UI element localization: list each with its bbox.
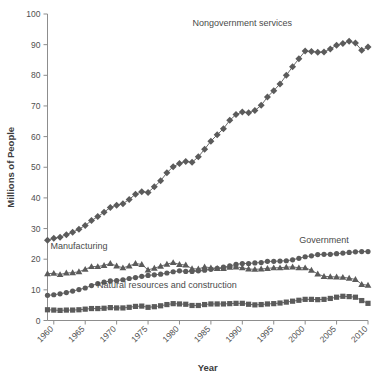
data-point-circle [271, 259, 276, 264]
data-point-square [340, 294, 345, 299]
data-point-circle [202, 268, 207, 273]
data-point-circle [215, 266, 220, 271]
data-point-circle [57, 291, 62, 296]
data-point-circle [321, 252, 326, 257]
y-tick-label: 60 [31, 132, 41, 142]
x-tick-label: 1980 [160, 324, 181, 345]
data-point-square [171, 301, 176, 306]
y-tick-label: 90 [31, 40, 41, 50]
data-point-diamond [321, 49, 328, 56]
data-point-circle [64, 290, 69, 295]
data-point-diamond [75, 226, 82, 233]
data-point-square [89, 306, 94, 311]
data-point-circle [233, 262, 238, 267]
data-point-circle [183, 269, 188, 274]
data-point-square [152, 304, 157, 309]
data-point-square [252, 302, 257, 307]
x-tick-label: 1990 [223, 324, 244, 345]
data-point-square [315, 297, 320, 302]
data-point-triangle [107, 260, 114, 266]
series-label-1: Nongovernment services [193, 18, 293, 28]
data-point-circle [340, 250, 345, 255]
data-point-circle [227, 263, 232, 268]
data-point-square [353, 295, 358, 300]
data-point-diamond [314, 49, 321, 56]
x-tick-label: 1970 [98, 324, 119, 345]
data-point-square [64, 307, 69, 312]
data-point-diamond [327, 45, 334, 52]
data-point-circle [246, 261, 251, 266]
data-point-diamond [346, 38, 353, 45]
y-tick-label: 0 [36, 316, 41, 326]
data-point-circle [240, 261, 245, 266]
data-point-square [45, 307, 50, 312]
data-point-square [196, 303, 201, 308]
data-point-square [359, 298, 364, 303]
data-point-square [189, 303, 194, 308]
x-tick-label: 1965 [66, 324, 87, 345]
data-point-square [265, 301, 270, 306]
data-point-triangle [82, 266, 89, 272]
data-point-triangle [170, 259, 177, 265]
data-point-square [51, 307, 56, 312]
data-point-square [290, 299, 295, 304]
data-point-diamond [339, 40, 346, 47]
data-point-square [133, 304, 138, 309]
data-point-diamond [113, 202, 120, 209]
data-point-square [139, 303, 144, 308]
y-tick-label: 100 [26, 9, 40, 19]
data-point-square [114, 305, 119, 310]
data-point-square [120, 305, 125, 310]
line-chart: 0102030405060708090100 19601965197019751… [0, 0, 379, 382]
data-point-square [95, 306, 100, 311]
series-group [44, 38, 372, 313]
data-point-square [284, 300, 289, 305]
data-point-square [70, 307, 75, 312]
data-point-square [202, 302, 207, 307]
data-point-circle [76, 287, 81, 292]
data-point-circle [89, 283, 94, 288]
series-label-4: Natural resources and construction [97, 280, 237, 290]
x-tick-label: 1995 [255, 324, 276, 345]
data-point-square [158, 303, 163, 308]
series-3 [45, 249, 371, 298]
data-point-circle [196, 268, 201, 273]
data-point-circle [290, 257, 295, 262]
data-point-triangle [76, 268, 83, 274]
data-point-circle [145, 273, 150, 278]
data-point-diamond [333, 42, 340, 49]
data-point-square [233, 301, 238, 306]
data-point-square [145, 305, 150, 310]
data-point-square [328, 296, 333, 301]
data-point-square [246, 302, 251, 307]
data-point-square [296, 298, 301, 303]
data-point-circle [265, 259, 270, 264]
data-point-triangle [50, 270, 57, 276]
data-point-square [240, 301, 245, 306]
chart-container: 0102030405060708090100 19601965197019751… [0, 0, 379, 382]
data-point-circle [70, 288, 75, 293]
data-point-diamond [308, 48, 315, 55]
data-point-circle [189, 269, 194, 274]
data-point-circle [51, 292, 56, 297]
x-tick-label: 2005 [318, 324, 339, 345]
x-tick-label: 1975 [129, 324, 150, 345]
data-point-square [101, 306, 106, 311]
data-point-square [259, 302, 264, 307]
series-1 [44, 38, 372, 244]
data-point-triangle [321, 273, 328, 279]
data-point-circle [277, 258, 282, 263]
data-point-diamond [119, 200, 126, 207]
data-point-circle [171, 269, 176, 274]
data-point-circle [315, 252, 320, 257]
data-point-circle [221, 265, 226, 270]
y-tick-label: 40 [31, 193, 41, 203]
data-point-square [57, 308, 62, 313]
data-point-circle [45, 293, 50, 298]
data-point-diamond [57, 234, 64, 241]
x-tick-label: 1960 [35, 324, 56, 345]
data-point-square [227, 301, 232, 306]
data-point-circle [152, 272, 157, 277]
data-point-circle [347, 250, 352, 255]
data-point-diamond [176, 160, 183, 167]
